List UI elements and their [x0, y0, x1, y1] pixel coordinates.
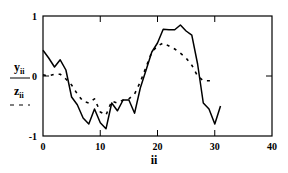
z-axis-label: zii [14, 84, 25, 100]
x-tick-label: 40 [267, 141, 277, 152]
x-tick-label: 10 [95, 141, 105, 152]
z-ii-line [43, 43, 215, 115]
data-series [43, 25, 221, 129]
x-tick-label: 20 [153, 141, 163, 152]
y-tick-label: -1 [29, 131, 37, 142]
x-tick-label: 0 [41, 141, 46, 152]
x-axis-label: ii [151, 153, 158, 167]
y-ii-line [43, 25, 221, 129]
line-chart: 010203040-101 yii zii ii [0, 0, 288, 173]
tick-labels: 010203040-101 [29, 11, 277, 152]
plot-frame [43, 16, 272, 136]
y-tick-label: 0 [32, 71, 37, 82]
x-tick-label: 30 [210, 141, 220, 152]
axis-ticks [43, 16, 272, 136]
y-axis-label: yii [14, 60, 25, 76]
y-tick-label: 1 [32, 11, 37, 22]
